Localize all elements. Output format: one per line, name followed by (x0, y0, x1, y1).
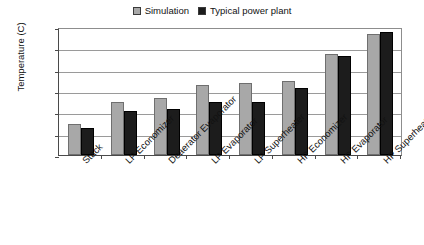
x-axis-category-label: Stack (80, 158, 88, 166)
bar-typical-power-plant[interactable] (380, 32, 393, 155)
legend-swatch-icon (133, 7, 141, 15)
x-axis-category-label: HP Economizer (295, 158, 303, 166)
x-axis-category-label: HP Evaporator (338, 158, 346, 166)
x-axis-category-label: Deaerator Evaporator (166, 158, 174, 166)
bar-typical-power-plant[interactable] (338, 56, 351, 155)
chart-legend: Simulation Typical power plant (0, 6, 424, 16)
x-axis-category-label: LP Evaporator (209, 158, 217, 166)
legend-item-typical-power-plant: Typical power plant (198, 6, 291, 16)
legend-item-simulation: Simulation (133, 6, 189, 16)
legend-label-simulation: Simulation (145, 6, 189, 16)
x-axis-labels: StackLP EconomizerDeaerator EvaporatorLP… (58, 158, 402, 244)
bar-simulation[interactable] (111, 102, 124, 155)
x-axis-category-label: LP Economizer (123, 158, 131, 166)
x-axis-category-label: HP Superheater (381, 158, 389, 166)
bar-chart-figure: Simulation Typical power plant Temperatu… (0, 0, 424, 245)
bar-simulation[interactable] (68, 124, 81, 155)
x-axis-category-label: LP Superheater (252, 158, 260, 166)
bar-group (102, 29, 145, 155)
bar-group (59, 29, 102, 155)
y-axis-title: Temperature (C) (16, 0, 26, 117)
legend-swatch-icon (198, 7, 206, 15)
legend-label-typical-power-plant: Typical power plant (210, 6, 291, 16)
